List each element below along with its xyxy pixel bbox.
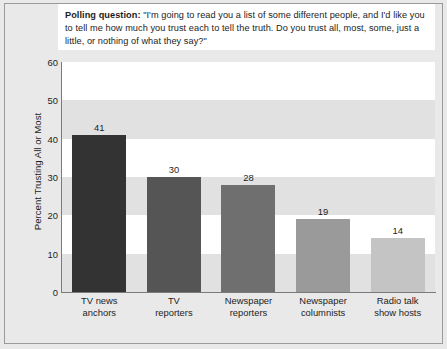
x-axis-label-line: TV news (62, 295, 137, 307)
x-axis-category-label: Newspaperreporters (211, 295, 286, 320)
x-axis-label-line: Newspaper (286, 295, 361, 307)
y-axis-tick-label: 10 (12, 248, 58, 259)
x-axis-line (61, 292, 436, 293)
x-axis-label-line: Radio talk (360, 295, 435, 307)
bar-slot: 14 (360, 62, 435, 292)
x-axis-label-line: reporters (211, 307, 286, 319)
bar-value-label: 19 (318, 206, 328, 217)
y-axis-ticks: 0102030405060 (0, 62, 58, 292)
plot-area: 4130281914 (62, 62, 435, 292)
x-axis-label-line: anchors (62, 307, 137, 319)
polling-question-lead: Polling question: (65, 10, 141, 20)
chart-figure: Polling question: "I'm going to read you… (0, 0, 447, 349)
y-axis-tick-label: 20 (12, 210, 58, 221)
bar (371, 238, 425, 292)
polling-question-box: Polling question: "I'm going to read you… (58, 4, 435, 50)
x-axis-label-line: TV (137, 295, 212, 307)
bar-slot: 28 (211, 62, 286, 292)
bar-slot: 41 (62, 62, 137, 292)
bar-slot: 19 (286, 62, 361, 292)
x-axis-category-label: TVreporters (137, 295, 212, 320)
x-axis-category-label: Newspapercolumnists (286, 295, 361, 320)
x-axis-category-label: TV newsanchors (62, 295, 137, 320)
bar-value-label: 28 (243, 172, 253, 183)
bar-value-label: 30 (169, 164, 179, 175)
x-axis-category-label: Radio talkshow hosts (360, 295, 435, 320)
bar (296, 219, 350, 292)
y-axis-line (61, 62, 62, 293)
y-axis-tick-label: 60 (12, 57, 58, 68)
x-axis-label-line: reporters (137, 307, 212, 319)
bar-value-label: 14 (392, 225, 402, 236)
bar (221, 185, 275, 292)
x-axis-labels: TV newsanchorsTVreportersNewspaperreport… (62, 295, 435, 320)
x-axis-label-line: columnists (286, 307, 361, 319)
x-axis-label-line: show hosts (360, 307, 435, 319)
x-axis-label-line: Newspaper (211, 295, 286, 307)
bar-value-label: 41 (94, 122, 104, 133)
y-axis-tick-label: 50 (12, 95, 58, 106)
y-axis-tick-label: 40 (12, 133, 58, 144)
bar (147, 177, 201, 292)
y-axis-tick-label: 0 (12, 287, 58, 298)
bar-series: 4130281914 (62, 62, 435, 292)
y-axis-tick-label: 30 (12, 172, 58, 183)
bar (72, 135, 126, 292)
bar-slot: 30 (137, 62, 212, 292)
polling-question-text: Polling question: "I'm going to read you… (65, 9, 427, 49)
